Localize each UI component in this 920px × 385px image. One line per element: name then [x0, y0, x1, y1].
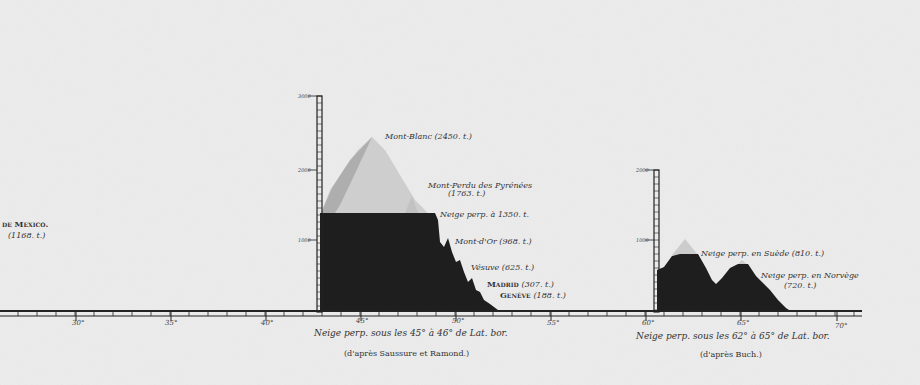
xtick-50: 50°	[452, 317, 464, 325]
xtick-55: 55°	[547, 319, 559, 327]
alps-ytick-1000: 1000	[298, 237, 311, 243]
north-caption: Neige perp. sous les 62° à 65° de Lat. b…	[636, 331, 830, 341]
north-source: (d'après Buch.)	[700, 350, 762, 359]
label-vesuve: Vésuve (625. t.)	[471, 263, 534, 272]
xtick-45: 45°	[356, 317, 368, 325]
label-snow-norway-value: (720. t.)	[784, 281, 816, 290]
xtick-30: 30°	[72, 319, 84, 327]
label-mont-dor: Mont-d'Or (968. t.)	[455, 237, 532, 246]
xtick-35: 35°	[165, 319, 177, 327]
north-ytick-1000: 1000	[636, 237, 649, 243]
label-madrid: Madrid (307. t.)	[487, 280, 554, 289]
label-snow-line: Neige perp. à 1350. t.	[440, 210, 529, 219]
xtick-70: 70°	[835, 322, 847, 330]
label-snow-norway: Neige perp. en Norvège	[761, 271, 859, 280]
label-geneve: Genève (188. t.)	[500, 291, 566, 300]
alps-ytick-2000: 2000	[298, 167, 311, 173]
xtick-40: 40°	[261, 319, 273, 327]
alps-source: (d'après Saussure et Ramond.)	[344, 349, 469, 358]
label-mont-blanc: Mont-Blanc (2450. t.)	[385, 132, 472, 141]
xtick-60: 60°	[642, 319, 654, 327]
north-ytick-2000: 2000	[636, 167, 649, 173]
alps-ytick-3000: 3000	[298, 93, 311, 99]
alps-caption: Neige perp. sous les 45° à 46° de Lat. b…	[314, 328, 508, 338]
label-mont-perdu-value: (1763. t.)	[448, 189, 485, 198]
mexico-label: de Mexico.	[2, 220, 48, 229]
xtick-65: 65°	[737, 319, 749, 327]
label-snow-sweden: Neige perp. en Suède (810. t.)	[701, 249, 824, 258]
mexico-value: (1168. t.)	[8, 231, 45, 240]
